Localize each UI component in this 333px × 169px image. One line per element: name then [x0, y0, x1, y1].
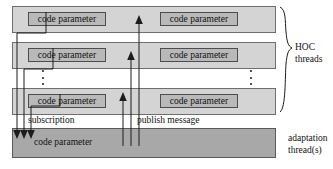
code-parameter-box: code parameter: [160, 12, 238, 26]
code-parameter-box: code parameter: [28, 94, 106, 108]
hoc-threads-annotation-line1: HOC: [295, 42, 322, 54]
hoc-threads-brace: [280, 7, 292, 112]
adaptation-thread-annotation-line1: adaptation: [288, 133, 328, 145]
vertical-ellipsis-left-icon: [42, 70, 46, 85]
hoc-threads-annotation: HOC threads: [295, 42, 322, 65]
adaptation-thread-annotation-line2: thread(s): [288, 145, 328, 157]
code-parameter-box: code parameter: [28, 48, 106, 62]
diagram-canvas: code parameter code parameter code param…: [0, 0, 333, 169]
adaptation-code-parameter-label: code parameter: [34, 136, 92, 149]
publish-message-label: publish message: [137, 114, 200, 127]
code-parameter-box: code parameter: [28, 12, 106, 26]
vertical-ellipsis-right-icon: [250, 70, 254, 85]
hoc-threads-annotation-line2: threads: [295, 54, 322, 66]
adaptation-thread-annotation: adaptation thread(s): [288, 133, 328, 156]
code-parameter-box: code parameter: [160, 48, 238, 62]
subscription-label: subscription: [28, 114, 74, 127]
code-parameter-box: code parameter: [160, 94, 238, 108]
